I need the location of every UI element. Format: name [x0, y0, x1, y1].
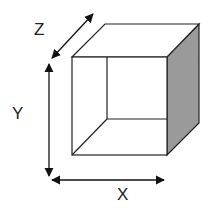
y-axis-label: Y	[12, 104, 23, 123]
box-diagram: Z Y X	[0, 0, 212, 213]
cube	[72, 24, 199, 155]
z-axis-label: Z	[34, 20, 44, 39]
x-axis-label: X	[117, 185, 128, 204]
